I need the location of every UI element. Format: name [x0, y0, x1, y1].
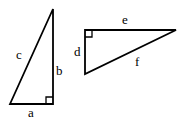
- triangle-2-outline: [85, 30, 176, 74]
- label-a: a: [28, 105, 34, 120]
- triangle-1: c b a: [10, 9, 63, 120]
- right-angle-marker-2: [85, 30, 92, 37]
- label-c: c: [16, 47, 22, 62]
- diagram-canvas: c b a e d f: [0, 0, 187, 125]
- label-e: e: [122, 12, 128, 27]
- right-angle-marker-1: [46, 97, 53, 104]
- label-d: d: [74, 44, 81, 59]
- label-f: f: [135, 54, 140, 69]
- triangle-2: e d f: [74, 12, 176, 74]
- label-b: b: [56, 63, 63, 78]
